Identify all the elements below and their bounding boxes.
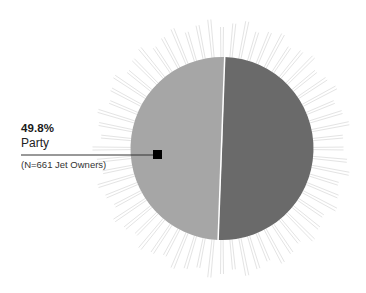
ray-line <box>112 88 144 105</box>
ray-line <box>255 232 267 262</box>
ray-line <box>257 231 270 260</box>
ray-line <box>286 58 315 86</box>
slice-annotation: 49.8% Party <box>21 121 54 150</box>
ray-line <box>110 101 139 114</box>
ray-line <box>280 52 303 80</box>
ray-line <box>115 75 148 98</box>
ray-line <box>135 211 158 233</box>
ray-line <box>98 173 136 184</box>
ray-line <box>141 218 166 249</box>
ray-line <box>126 206 154 229</box>
ray-line <box>285 56 313 85</box>
ray-line <box>99 109 137 121</box>
ray-line <box>132 61 158 86</box>
percent-label: 49.8% <box>21 121 54 135</box>
ray-line <box>134 59 159 85</box>
marker-square <box>153 150 162 159</box>
ray-line <box>273 222 293 252</box>
ray-line <box>247 234 257 269</box>
pie-slice-other <box>218 57 313 240</box>
ray-line <box>109 103 139 115</box>
ray-line <box>286 211 315 239</box>
pie-slice-party <box>131 57 225 240</box>
ray-line <box>151 222 171 252</box>
ray-line <box>296 78 326 98</box>
ray-line <box>166 228 181 256</box>
ray-line <box>304 184 337 198</box>
ray-line <box>285 213 313 242</box>
ray-line <box>278 51 301 79</box>
ray-line <box>98 112 136 123</box>
ray-line <box>187 234 197 269</box>
ray-line <box>305 103 335 115</box>
ray-line <box>257 33 271 66</box>
ray-line <box>107 184 140 198</box>
ray-line <box>141 47 166 78</box>
ray-line <box>290 206 318 229</box>
category-label: Party <box>21 136 54 150</box>
ray-line <box>304 101 333 114</box>
ray-line <box>124 204 152 227</box>
ray-line <box>308 114 343 124</box>
ray-line <box>99 176 137 188</box>
pie-chart <box>0 0 366 293</box>
ray-line <box>114 190 142 205</box>
ray-line <box>115 199 148 222</box>
ray-line <box>137 213 159 236</box>
sample-size-note: (N=661 Jet Owners) <box>21 159 106 170</box>
ray-line <box>162 39 179 71</box>
ray-line <box>292 204 320 227</box>
